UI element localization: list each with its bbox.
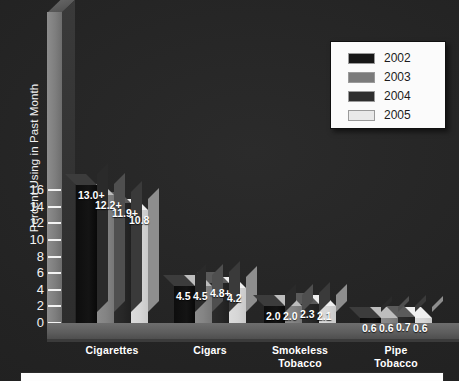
bar-pipe-tobacco-2002[interactable] <box>360 318 381 323</box>
y-tick-label-2: 2 <box>6 299 44 312</box>
x-label-cigarettes: Cigarettes <box>60 344 164 357</box>
legend-item-2005[interactable]: 2005 <box>348 108 411 122</box>
bar-side-face <box>114 173 125 312</box>
legend-item-2002[interactable]: 2002 <box>348 51 411 65</box>
legend-label-2003: 2003 <box>384 70 411 84</box>
bar-side-face <box>131 181 142 312</box>
bar-side-face <box>97 163 108 312</box>
x-label-pipe-tobacco: PipeTobacco <box>344 344 448 370</box>
x-label-cigars: Cigars <box>158 344 262 357</box>
x-label-smokeless-tobacco: SmokelessTobacco <box>248 344 352 370</box>
chart-floor-edge <box>47 339 459 342</box>
y-tick-16 <box>48 189 61 191</box>
y-tick-label-14: 14 <box>6 200 44 213</box>
legend[interactable]: 2002200320042005 <box>330 41 446 129</box>
legend-swatch-2003 <box>348 72 375 83</box>
y-tick-8 <box>48 256 61 258</box>
bar-side-face <box>246 266 257 312</box>
bar-smokeless-tobacco-2002[interactable] <box>264 306 285 323</box>
y-tick-label-0: 0 <box>6 316 44 329</box>
y-tick-label-12: 12 <box>6 216 44 229</box>
bar-side-face <box>148 188 159 312</box>
y-tick-2 <box>48 305 61 307</box>
y-tick-label-6: 6 <box>6 266 44 279</box>
legend-item-2004[interactable]: 2004 <box>348 89 411 103</box>
y-tick-label-8: 8 <box>6 250 44 263</box>
y-tick-label-4: 4 <box>6 283 44 296</box>
legend-item-2003[interactable]: 2003 <box>348 70 411 84</box>
bar-cigars-2002[interactable] <box>174 286 195 323</box>
chart-root: Percent Using in Past Month 024681012141… <box>0 0 459 381</box>
y-axis-wall-side <box>62 0 75 324</box>
y-tick-4 <box>48 289 61 291</box>
bar-front-face <box>360 318 381 323</box>
bar-cigarettes-2002[interactable] <box>76 185 97 323</box>
legend-swatch-2002 <box>348 53 375 64</box>
bar-front-face <box>264 306 285 323</box>
legend-label-2005: 2005 <box>384 108 411 122</box>
legend-label-2004: 2004 <box>384 89 411 103</box>
y-tick-6 <box>48 272 61 274</box>
bar-front-face <box>76 185 97 323</box>
bottom-panel <box>20 372 444 381</box>
y-tick-14 <box>48 206 61 208</box>
y-tick-label-16: 16 <box>6 183 44 196</box>
bar-side-face <box>432 296 443 312</box>
bar-side-face <box>336 284 347 312</box>
legend-swatch-2005 <box>348 110 375 121</box>
bar-front-face <box>174 286 195 323</box>
chart-floor <box>47 323 459 339</box>
legend-swatch-2004 <box>348 91 375 102</box>
y-axis-wall <box>47 12 62 324</box>
legend-label-2002: 2002 <box>384 51 411 65</box>
y-tick-10 <box>48 239 61 241</box>
y-tick-12 <box>48 222 61 224</box>
y-tick-label-10: 10 <box>6 233 44 246</box>
